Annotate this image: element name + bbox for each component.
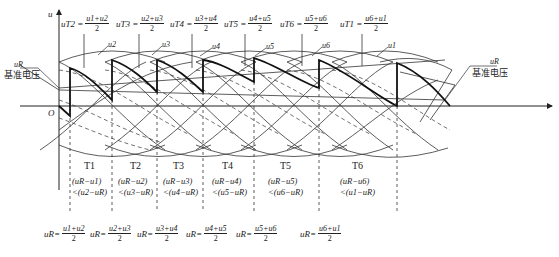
top-equation-uT3: uT3 = u2+u32 (116, 14, 164, 33)
curve-label-u6: u6 (322, 41, 330, 50)
curve-label-u3: u3 (162, 40, 170, 49)
phase-curves (20, 51, 455, 157)
top-equation-uT6: uT6 = u5+u62 (280, 14, 328, 33)
reference-label-left: 基准电压 (4, 71, 40, 80)
interval-T3: T3 (173, 160, 184, 171)
top-equation-uT2: uT2 = u1+u22 (61, 14, 109, 33)
top-equation-uT5: uT5 = u4+u52 (224, 14, 272, 33)
equation-leaders (84, 34, 362, 68)
bottom-equation-6: uR= u6+u12 (300, 224, 341, 243)
interval-T1-condition: (uR−u1)<(u2−uR) (72, 176, 107, 198)
curve-label-u2: u2 (108, 40, 116, 49)
curve-label-u1: u1 (388, 41, 396, 50)
bottom-equation-4: uR= u4+u52 (186, 224, 227, 243)
interval-T4: T4 (222, 160, 233, 171)
interval-T5-condition: (uR−u5)<(u6−uR) (268, 176, 303, 198)
reference-label-right: 基准电压 (472, 69, 508, 78)
output-waveform (59, 58, 450, 116)
y-axis-label: u (48, 10, 53, 19)
interval-T5: T5 (280, 160, 291, 171)
interval-T6-condition: (uR−u6)<(u1−uR) (340, 176, 375, 198)
origin-label: O (48, 109, 55, 118)
reference-symbol-left: uR (14, 60, 23, 69)
bottom-equation-1: uR= u1+u22 (44, 224, 85, 243)
curve-label-u4: u4 (212, 42, 220, 51)
interval-T3-condition: (uR−u3)<(u4−uR) (163, 176, 198, 198)
top-equation-uT1: uT1 = u6+u12 (340, 14, 388, 33)
waveform-diagram (0, 0, 559, 257)
interval-T4-condition: (uR−u4)<(u5−uR) (212, 176, 247, 198)
bottom-equation-3: uR= u3+u42 (137, 224, 178, 243)
interval-T1: T1 (84, 160, 95, 171)
interval-T2: T2 (130, 160, 141, 171)
interval-T6: T6 (352, 160, 363, 171)
curve-label-leaders (20, 46, 497, 100)
top-equation-uT4: uT4 = u3+u42 (170, 14, 218, 33)
bottom-equation-5: uR= u5+u62 (236, 224, 277, 243)
reference-symbol-right: uR (490, 57, 499, 66)
curve-label-u5: u5 (266, 42, 274, 51)
interval-T2-condition: (uR−u2)<(u3−uR) (118, 176, 153, 198)
bottom-equation-2: uR= u2+u32 (90, 224, 131, 243)
